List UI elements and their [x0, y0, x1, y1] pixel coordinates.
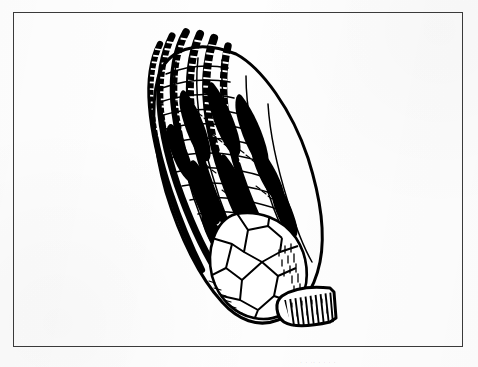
crinoid-column-stem [277, 287, 336, 327]
caption-ghost-text: . . .. . . . . [0, 356, 478, 365]
figure-illustration [0, 0, 478, 367]
crinoid-drawing-svg [0, 0, 478, 367]
scanned-page: . . .. . . . . [0, 0, 478, 367]
